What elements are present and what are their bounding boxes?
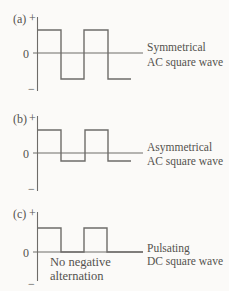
panel-c-square-wave [37,228,143,252]
panel-b-caption-line1: Asymmetrical [147,141,212,154]
panel-c-plus-label: + [29,206,36,220]
panel-c-minus-label: − [28,277,35,291]
panel-a-square-wave [37,30,131,79]
panel-c-caption-line1: Pulsating [147,242,190,255]
panel-a-zero-label: 0 [23,47,29,61]
panel-a-caption-line2: AC square wave [147,56,223,69]
panel-c-note-line1: No negative [50,255,111,269]
panel-c-zero-label: 0 [23,246,29,260]
panel-a-caption-line1: Symmetrical [147,41,206,54]
panel-b-minus-label: − [28,182,35,196]
waveform-figure: (a) + 0 − Symmetrical AC square wave (b)… [0,0,229,291]
panel-c: (c) + 0 − Pulsating DC square wave No ne… [13,206,223,291]
panel-b-zero-label: 0 [23,147,29,161]
panel-b-square-wave [37,130,131,161]
waveform-svg: (a) + 0 − Symmetrical AC square wave (b)… [0,0,229,291]
panel-c-caption-line2: DC square wave [147,255,223,268]
panel-a-minus-label: − [28,82,35,96]
panel-c-note-line2: alternation [50,269,104,283]
panel-a: (a) + 0 − Symmetrical AC square wave [13,11,223,96]
panel-b-plus-label: + [29,111,36,125]
panel-b-index-label: (b) [13,112,27,126]
panel-b-caption-line2: AC square wave [147,155,223,168]
panel-c-index-label: (c) [13,207,26,221]
panel-a-plus-label: + [29,11,36,25]
panel-b: (b) + 0 − Asymmetrical AC square wave [13,111,223,196]
panel-a-index-label: (a) [13,12,26,26]
